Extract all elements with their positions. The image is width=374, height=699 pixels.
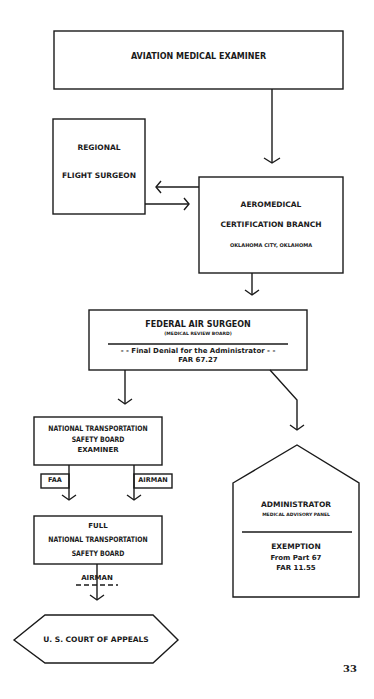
admin-line4: From Part 67: [233, 554, 359, 562]
rfs-line1: REGIONAL: [53, 143, 145, 152]
ntsbf-line2: NATIONAL TRANSPORTATION: [46, 535, 151, 544]
admin-line5: FAR 11.55: [233, 564, 359, 572]
acb-line1: AEROMEDICAL: [199, 200, 343, 209]
airman-label-2: AIRMAN: [72, 574, 122, 582]
admin-line2: MEDICAL ADVISORY PANEL: [233, 512, 359, 517]
rfs-box: [53, 119, 145, 214]
ame-label: AVIATION MEDICAL EXAMINER: [54, 52, 343, 61]
ntsbe-line3: EXAMINER: [34, 446, 162, 454]
airman-label: AIRMAN: [134, 476, 172, 484]
fas-line1: FEDERAL AIR SURGEON: [89, 320, 307, 329]
fas-line2: (MEDICAL REVIEW BOARD): [89, 331, 307, 336]
admin-line1: ADMINISTRATOR: [233, 500, 359, 509]
admin-line3: EXEMPTION: [233, 542, 359, 551]
court-label: U. S. COURT OF APPEALS: [14, 635, 178, 644]
acb-line2: CERTIFICATION BRANCH: [199, 220, 343, 229]
ntsbf-line3: SAFETY BOARD: [46, 549, 151, 558]
ntsbf-line1: FULL: [34, 522, 162, 530]
acb-line3: OKLAHOMA CITY, OKLAHOMA: [199, 242, 343, 248]
admin-box: [233, 445, 359, 597]
ntsbe-line2: SAFETY BOARD: [46, 435, 151, 444]
fas-line4: FAR 67.27: [89, 356, 307, 364]
rfs-line2: FLIGHT SURGEON: [53, 171, 145, 180]
ntsbe-line1: NATIONAL TRANSPORTATION: [46, 424, 151, 433]
faa-label: FAA: [41, 476, 69, 484]
page-number: 33: [340, 663, 360, 674]
fas-line3: - - Final Denial for the Administrator -…: [89, 347, 307, 355]
